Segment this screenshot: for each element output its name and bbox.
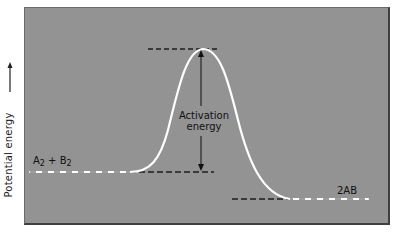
y-axis-up-arrow-icon bbox=[8, 62, 13, 68]
reactants-label: A2 + B2 bbox=[33, 155, 72, 168]
arrow-down-icon bbox=[198, 164, 204, 171]
products-label: 2AB bbox=[337, 185, 357, 196]
y-axis-label: Potential energy bbox=[3, 90, 17, 220]
activation-energy-label: Activation energy bbox=[172, 110, 236, 132]
activation-label-line2: energy bbox=[172, 121, 236, 132]
activation-label-line1: Activation bbox=[172, 110, 236, 121]
